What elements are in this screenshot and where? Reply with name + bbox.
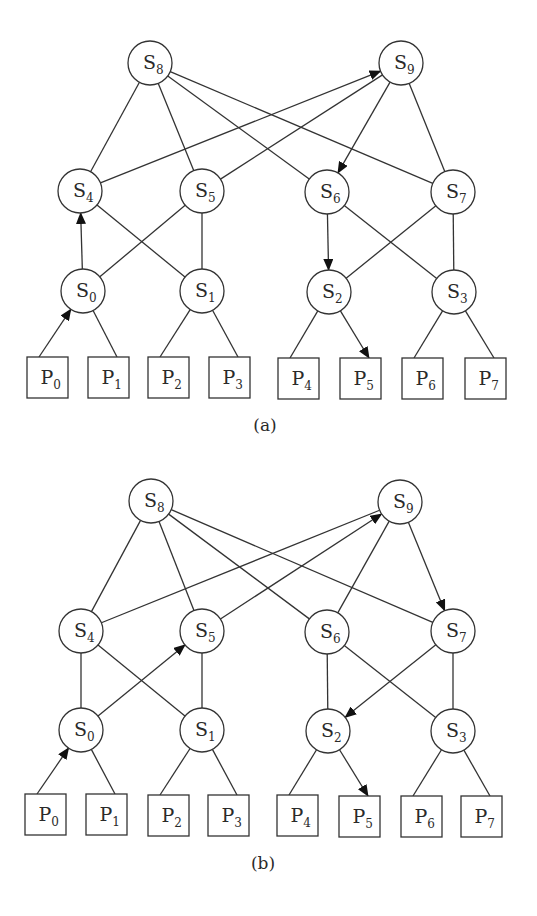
edge-s8-s4 bbox=[91, 520, 140, 611]
node-label-base: P bbox=[415, 805, 428, 827]
node-label-base: S bbox=[393, 490, 406, 512]
node-label-base: S bbox=[195, 179, 208, 201]
node-label-base: P bbox=[292, 367, 305, 389]
edge-p4-s2 bbox=[289, 750, 317, 795]
processor-node-p3: P3 bbox=[209, 357, 250, 398]
panel-b-caption: (b) bbox=[251, 853, 275, 873]
processor-node-p5: P5 bbox=[339, 796, 380, 837]
switch-node-s0: S0 bbox=[61, 269, 105, 313]
edge-p3-s1 bbox=[213, 310, 238, 357]
switch-node-s4: S4 bbox=[58, 169, 102, 213]
node-label-subscript: 7 bbox=[459, 631, 467, 645]
node-label-base: P bbox=[162, 804, 175, 826]
processor-node-p3: P3 bbox=[208, 795, 249, 836]
switch-node-s2: S2 bbox=[307, 270, 351, 314]
processor-node-p5: P5 bbox=[340, 358, 381, 399]
edge-p2-s1 bbox=[160, 310, 190, 357]
node-label-subscript: 3 bbox=[459, 731, 467, 745]
node-label-base: S bbox=[320, 620, 333, 642]
node-label-subscript: 2 bbox=[174, 816, 182, 830]
edge-s6-s2-arrow bbox=[327, 214, 328, 270]
switch-node-s8: S8 bbox=[128, 41, 172, 85]
edge-s5-s9-arrow bbox=[220, 514, 381, 619]
node-label-subscript: 1 bbox=[112, 815, 120, 829]
node-label-base: P bbox=[416, 367, 429, 389]
node-label-subscript: 0 bbox=[51, 815, 59, 829]
node-label-subscript: 3 bbox=[235, 378, 243, 392]
switch-node-s7: S7 bbox=[431, 609, 475, 653]
node-label-subscript: 5 bbox=[366, 379, 374, 393]
node-label-base: S bbox=[394, 51, 407, 73]
edge-p0-s0-arrow bbox=[39, 309, 71, 357]
node-label-subscript: 1 bbox=[208, 291, 216, 305]
edge-s9-s5 bbox=[221, 75, 383, 179]
switch-node-s3: S3 bbox=[431, 709, 475, 753]
node-label-subscript: 2 bbox=[335, 292, 343, 306]
node-label-subscript: 8 bbox=[156, 63, 164, 77]
processor-node-p4: P4 bbox=[278, 358, 319, 399]
switch-node-s7: S7 bbox=[431, 170, 475, 214]
edge-s2-p5-arrow bbox=[340, 311, 369, 358]
edge-p2-s1 bbox=[160, 748, 190, 795]
switch-node-s8: S8 bbox=[129, 479, 173, 523]
node-label-subscript: 7 bbox=[459, 192, 467, 206]
panel-b: S8S9S4S5S6S7S0S1S2S3P0P1P2P3P4P5P6P7 (b) bbox=[25, 479, 502, 873]
switch-node-s3: S3 bbox=[432, 270, 476, 314]
switch-node-s9: S9 bbox=[379, 41, 423, 85]
node-label-base: P bbox=[291, 804, 304, 826]
edge-p7-s3 bbox=[464, 750, 490, 796]
panel-b-nodes: S8S9S4S5S6S7S0S1S2S3P0P1P2P3P4P5P6P7 bbox=[25, 479, 502, 837]
processor-node-p6: P6 bbox=[402, 358, 443, 399]
node-label-subscript: 7 bbox=[487, 817, 495, 831]
processor-node-p0: P0 bbox=[25, 794, 66, 835]
processor-node-p6: P6 bbox=[401, 796, 442, 837]
edge-p1-s0 bbox=[91, 749, 115, 794]
node-label-base: S bbox=[322, 280, 335, 302]
node-label-subscript: 7 bbox=[491, 379, 499, 393]
switch-node-s9: S9 bbox=[378, 480, 422, 524]
processor-node-p7: P7 bbox=[465, 358, 506, 399]
panel-b-edges bbox=[37, 510, 490, 796]
node-label-subscript: 4 bbox=[87, 631, 95, 645]
node-label-subscript: 6 bbox=[333, 192, 341, 206]
processor-node-p2: P2 bbox=[148, 357, 189, 398]
node-label-base: S bbox=[74, 718, 87, 740]
node-label-subscript: 6 bbox=[333, 632, 341, 646]
node-label-base: P bbox=[223, 366, 236, 388]
node-label-subscript: 0 bbox=[87, 730, 95, 744]
multistage-network-diagram: S8S9S4S5S6S7S0S1S2S3P0P1P2P3P4P5P6P7 (a)… bbox=[0, 0, 537, 916]
panel-a-edges bbox=[39, 71, 494, 358]
processor-node-p2: P2 bbox=[148, 795, 189, 836]
node-label-base: S bbox=[446, 619, 459, 641]
processor-node-p1: P1 bbox=[88, 357, 129, 398]
node-label-base: S bbox=[73, 179, 86, 201]
node-label-subscript: 2 bbox=[174, 378, 182, 392]
edge-s9-s6 bbox=[338, 521, 389, 613]
switch-node-s5: S5 bbox=[180, 609, 224, 653]
node-label-base: P bbox=[162, 366, 175, 388]
edge-s7-s3 bbox=[453, 214, 454, 270]
node-label-base: P bbox=[102, 366, 115, 388]
node-label-base: S bbox=[447, 280, 460, 302]
node-label-base: P bbox=[41, 366, 54, 388]
node-label-base: S bbox=[143, 51, 156, 73]
node-label-subscript: 6 bbox=[428, 379, 436, 393]
node-label-subscript: 3 bbox=[460, 292, 468, 306]
node-label-subscript: 3 bbox=[234, 816, 242, 830]
node-label-base: S bbox=[320, 180, 333, 202]
network-figure: S8S9S4S5S6S7S0S1S2S3P0P1P2P3P4P5P6P7 (a)… bbox=[0, 0, 537, 916]
node-label-base: S bbox=[446, 719, 459, 741]
edge-s2-p5-arrow bbox=[340, 750, 368, 796]
switch-node-s4: S4 bbox=[59, 609, 103, 653]
panel-a-nodes: S8S9S4S5S6S7S0S1S2S3P0P1P2P3P4P5P6P7 bbox=[27, 41, 506, 399]
node-label-subscript: 6 bbox=[427, 817, 435, 831]
processor-node-p1: P1 bbox=[86, 794, 127, 835]
edge-p1-s0 bbox=[93, 311, 117, 357]
node-label-subscript: 4 bbox=[303, 816, 311, 830]
node-label-subscript: 0 bbox=[89, 291, 97, 305]
node-label-subscript: 1 bbox=[114, 378, 122, 392]
node-label-base: P bbox=[222, 804, 235, 826]
node-label-base: S bbox=[76, 279, 89, 301]
node-label-base: P bbox=[353, 805, 366, 827]
panel-a-caption: (a) bbox=[253, 415, 276, 435]
